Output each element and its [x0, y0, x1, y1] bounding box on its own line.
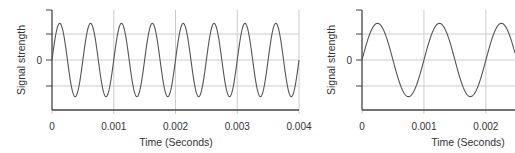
y-tick-label: 0: [36, 55, 42, 66]
chart-right: 00.0010.0020Time (Seconds)Signal strengt…: [325, 10, 515, 148]
chart-left: 00.0010.0020.0030.0040Time (Seconds)Sign…: [15, 10, 312, 148]
x-tick-label: 0.001: [101, 121, 126, 132]
x-tick-label: 0: [49, 121, 55, 132]
x-tick-label: 0.002: [473, 121, 498, 132]
x-axis-title: Time (Seconds): [139, 136, 213, 148]
y-axis-title: Signal strength: [325, 25, 337, 95]
x-tick-label: 0.003: [225, 121, 250, 132]
x-tick-label: 0.004: [286, 121, 311, 132]
x-tick-label: 0: [359, 121, 365, 132]
x-axis-title: Time (Seconds): [431, 136, 505, 148]
y-tick-label: 0: [346, 55, 352, 66]
y-axis-title: Signal strength: [15, 25, 27, 95]
x-tick-label: 0.002: [163, 121, 188, 132]
x-tick-label: 0.001: [411, 121, 436, 132]
charts-canvas: 00.0010.0020.0030.0040Time (Seconds)Sign…: [0, 0, 515, 153]
